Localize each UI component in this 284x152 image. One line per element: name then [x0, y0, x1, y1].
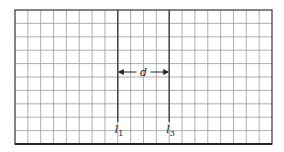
wire-label: l1	[115, 123, 124, 138]
separation-label: d	[140, 66, 147, 79]
wire-grid-diagram: l1l3 d	[0, 0, 284, 152]
wire-label: l3	[166, 123, 175, 138]
